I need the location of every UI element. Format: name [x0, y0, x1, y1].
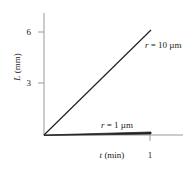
x-tick-label-1: 1 [148, 150, 153, 160]
series-label-r10: r = 10 µm [145, 40, 182, 50]
y-tick-label-3: 3 [27, 78, 32, 88]
x-axis-label: t (min) [100, 150, 125, 160]
series-line-r10 [44, 30, 151, 135]
y-tick-label-6: 6 [27, 27, 32, 37]
series-label-r1: r = 1 µm [101, 120, 133, 130]
chart-canvas: 6 3 1 L (mm) t (min) r = 10 µm r = 1 µm [0, 0, 193, 173]
y-axis-label: L (mm) [12, 53, 22, 81]
